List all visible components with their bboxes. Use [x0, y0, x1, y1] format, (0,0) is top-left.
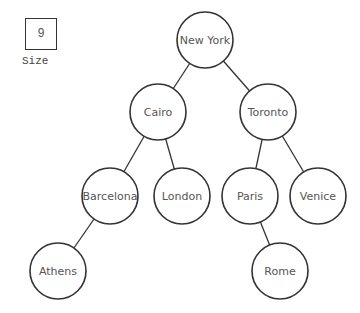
- tree-node-toronto[interactable]: Toronto: [240, 84, 296, 140]
- node-label: Toronto: [247, 106, 289, 119]
- node-label: Barcelona: [83, 190, 138, 203]
- tree-node-rome[interactable]: Rome: [252, 243, 308, 299]
- node-label: Cairo: [144, 106, 173, 119]
- node-label: Paris: [237, 190, 263, 203]
- binary-tree-diagram: New YorkCairoTorontoBarcelonaLondonParis…: [0, 0, 360, 313]
- node-label: Rome: [264, 265, 296, 278]
- tree-node-london[interactable]: London: [154, 168, 210, 224]
- tree-node-venice[interactable]: Venice: [290, 168, 346, 224]
- tree-node-barcelona[interactable]: Barcelona: [82, 168, 138, 224]
- tree-node-newyork[interactable]: New York: [177, 12, 233, 68]
- tree-node-athens[interactable]: Athens: [30, 243, 86, 299]
- node-label: New York: [180, 34, 231, 47]
- tree-node-cairo[interactable]: Cairo: [130, 84, 186, 140]
- node-label: Athens: [39, 265, 77, 278]
- tree-nodes: New YorkCairoTorontoBarcelonaLondonParis…: [30, 12, 346, 299]
- tree-edges: [58, 40, 318, 271]
- node-label: Venice: [300, 190, 337, 203]
- tree-node-paris[interactable]: Paris: [222, 168, 278, 224]
- node-label: London: [162, 190, 202, 203]
